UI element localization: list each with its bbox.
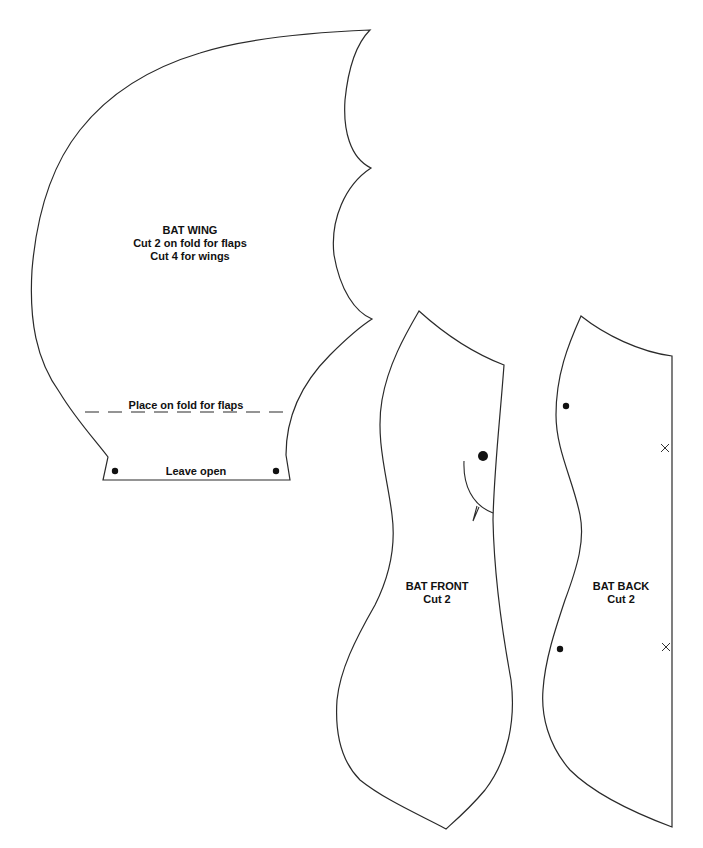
bat-front-outline xyxy=(337,311,513,829)
bat-front-instruction: Cut 2 xyxy=(406,593,469,606)
fold-label: Place on fold for flaps xyxy=(129,399,244,412)
leave-open-text: Leave open xyxy=(166,465,227,478)
bat-back-label: BAT BACK Cut 2 xyxy=(593,580,650,606)
pattern-sheet: BAT WING Cut 2 on fold for flaps Cut 4 f… xyxy=(0,0,703,848)
leave-open-label: Leave open xyxy=(166,465,227,478)
bat-front-title: BAT FRONT xyxy=(406,580,469,593)
bat-front-piece xyxy=(337,311,513,829)
bat-wing-instruction-2: Cut 4 for wings xyxy=(133,250,247,263)
wing-marker-dot-right xyxy=(273,468,279,474)
back-marker-dot-top xyxy=(563,403,569,409)
bat-back-piece xyxy=(543,316,672,827)
back-cross-mark-bottom xyxy=(662,643,670,651)
back-marker-dot-bottom xyxy=(557,646,563,652)
bat-back-outline xyxy=(543,316,672,827)
bat-back-title: BAT BACK xyxy=(593,580,650,593)
front-fang xyxy=(473,506,479,521)
bat-wing-label: BAT WING Cut 2 on fold for flaps Cut 4 f… xyxy=(133,224,247,263)
front-mouth-curve xyxy=(464,461,493,513)
bat-wing-instruction-1: Cut 2 on fold for flaps xyxy=(133,237,247,250)
bat-wing-title: BAT WING xyxy=(133,224,247,237)
wing-marker-dot-left xyxy=(112,468,118,474)
bat-front-label: BAT FRONT Cut 2 xyxy=(406,580,469,606)
pattern-drawing xyxy=(0,0,703,848)
bat-back-instruction: Cut 2 xyxy=(593,593,650,606)
back-cross-mark-top xyxy=(661,444,669,452)
front-eye-dot xyxy=(478,451,488,461)
fold-label-text: Place on fold for flaps xyxy=(129,399,244,412)
